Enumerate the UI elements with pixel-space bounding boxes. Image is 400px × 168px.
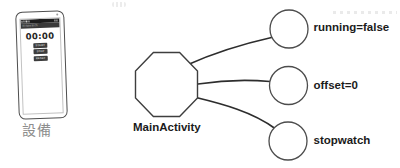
running-label: running=false xyxy=(314,21,390,33)
edge-mainactivity-running xyxy=(187,38,272,66)
diagram: Stopwatch 00:00 START STOP RESET 設備 Main… xyxy=(0,0,400,168)
state-graph: MainActivity running=false offset=0 stop… xyxy=(0,0,400,168)
state-node-stopwatch xyxy=(269,122,307,160)
state-node-running xyxy=(270,10,308,48)
mainactivity-label: MainActivity xyxy=(133,121,201,133)
mainactivity-node xyxy=(136,53,198,117)
offset-label: offset=0 xyxy=(314,79,358,91)
edge-mainactivity-offset xyxy=(198,80,270,84)
stopwatch-label: stopwatch xyxy=(314,134,371,146)
state-node-offset xyxy=(270,67,308,105)
edge-mainactivity-stopwatch xyxy=(194,97,275,129)
